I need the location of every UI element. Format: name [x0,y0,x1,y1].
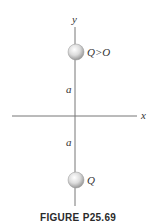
y-axis-label: y [71,13,77,25]
figure-caption: FIGURE P25.69 [40,212,116,223]
top-charge-label: Q>O [87,46,110,58]
bottom-charge-sphere [68,172,84,188]
bottom-charge-label: Q [87,174,95,186]
charge-diagram: y x Q>O a a Q FIGURE P25.69 [0,0,154,224]
top-distance-label: a [66,83,72,95]
top-charge-sphere [68,44,84,60]
x-axis-label: x [140,109,146,121]
bottom-distance-label: a [66,136,72,148]
